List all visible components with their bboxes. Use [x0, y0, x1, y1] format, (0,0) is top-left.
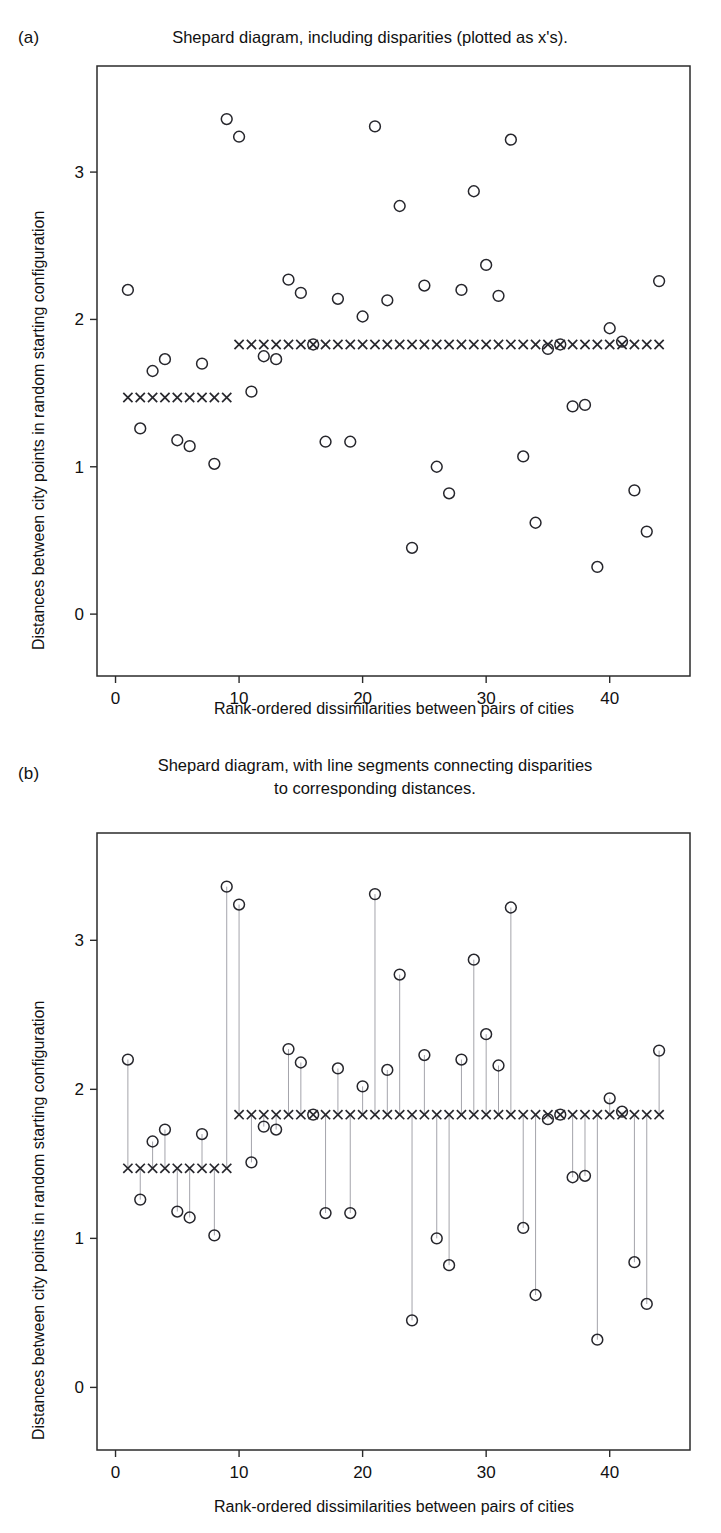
x-marker — [556, 1110, 565, 1119]
circle-marker — [604, 323, 615, 334]
connector-segments — [128, 887, 659, 1340]
x-marker — [469, 340, 478, 349]
x-marker — [247, 340, 256, 349]
x-marker — [358, 340, 367, 349]
x-marker — [556, 340, 565, 349]
x-tick-label: 30 — [477, 1463, 496, 1482]
x-marker — [617, 1110, 626, 1119]
x-marker — [494, 340, 503, 349]
x-marker — [333, 340, 342, 349]
x-marker — [272, 340, 281, 349]
x-marker — [605, 340, 614, 349]
x-marker — [655, 340, 664, 349]
x-marker — [457, 340, 466, 349]
circle-marker — [271, 354, 282, 365]
y-tick-label: 0 — [75, 1378, 84, 1397]
circle-marker — [221, 114, 232, 125]
x-marker — [383, 340, 392, 349]
x-marker — [309, 1110, 318, 1119]
x-tick-label: 10 — [230, 689, 249, 708]
x-marker — [531, 340, 540, 349]
circle-marker — [456, 285, 467, 296]
y-tick-label: 2 — [75, 310, 84, 329]
x-tick-label: 0 — [111, 1463, 120, 1482]
circle-marker — [283, 274, 294, 285]
circle-marker — [431, 461, 442, 472]
circle-marker — [468, 186, 479, 197]
circle-marker — [357, 311, 368, 322]
x-marker — [296, 340, 305, 349]
x-marker — [148, 393, 157, 402]
x-marker — [123, 393, 132, 402]
y-tick-label: 3 — [75, 931, 84, 950]
x-marker — [173, 393, 182, 402]
x-marker — [346, 340, 355, 349]
circle-marker — [444, 488, 455, 499]
circle-marker — [122, 285, 133, 296]
circle-marker — [295, 288, 306, 299]
circle-marker — [419, 280, 430, 291]
panel-a: (a) Shepard diagram, including dispariti… — [0, 0, 721, 740]
x-marker — [519, 340, 528, 349]
x-marker — [321, 340, 330, 349]
x-marker — [444, 340, 453, 349]
circle-marker — [641, 526, 652, 537]
x-tick-label: 30 — [477, 689, 496, 708]
circle-marker — [172, 435, 183, 446]
x-marker — [136, 393, 145, 402]
x-tick-label: 20 — [353, 689, 372, 708]
x-marker — [259, 340, 268, 349]
panel-a-plot: 0102030400123 — [0, 0, 721, 740]
circle-marker — [518, 451, 529, 462]
x-marker — [642, 340, 651, 349]
circle-marker — [234, 131, 245, 142]
x-tick-label: 40 — [600, 689, 619, 708]
y-tick-label: 2 — [75, 1080, 84, 1099]
x-marker — [309, 340, 318, 349]
disparity-markers — [123, 1110, 663, 1173]
circle-marker — [320, 436, 331, 447]
circle-marker — [209, 458, 220, 469]
circle-marker — [135, 423, 146, 434]
x-marker — [568, 340, 577, 349]
x-marker — [197, 393, 206, 402]
circle-marker — [407, 542, 418, 553]
circle-marker — [345, 436, 356, 447]
circle-marker — [530, 517, 541, 528]
x-tick-label: 20 — [353, 1463, 372, 1482]
x-tick-label: 10 — [230, 1463, 249, 1482]
x-marker — [222, 393, 231, 402]
x-marker — [482, 340, 491, 349]
x-marker — [617, 340, 626, 349]
circle-marker — [197, 358, 208, 369]
x-marker — [630, 340, 639, 349]
circle-marker — [370, 121, 381, 132]
y-tick-label: 1 — [75, 458, 84, 477]
x-marker — [593, 340, 602, 349]
circle-marker — [493, 290, 504, 301]
circle-marker — [184, 441, 195, 452]
circle-marker — [505, 134, 516, 145]
circle-marker — [481, 260, 492, 271]
panel-b: (b) Shepard diagram, with line segments … — [0, 740, 721, 1533]
x-marker — [420, 340, 429, 349]
x-marker — [506, 340, 515, 349]
x-marker — [234, 340, 243, 349]
x-marker — [395, 340, 404, 349]
x-tick-label: 40 — [600, 1463, 619, 1482]
x-marker — [210, 393, 219, 402]
x-marker — [160, 393, 169, 402]
circle-marker — [567, 401, 578, 412]
x-marker — [185, 393, 194, 402]
circle-marker — [654, 276, 665, 287]
x-marker — [370, 340, 379, 349]
circle-marker — [382, 295, 393, 306]
y-tick-label: 0 — [75, 605, 84, 624]
circle-marker — [592, 562, 603, 573]
circle-marker — [147, 366, 158, 377]
plot-frame — [97, 66, 690, 676]
circle-marker — [580, 399, 591, 410]
circle-marker — [394, 201, 405, 212]
x-tick-label: 0 — [111, 689, 120, 708]
circle-marker — [333, 293, 344, 304]
